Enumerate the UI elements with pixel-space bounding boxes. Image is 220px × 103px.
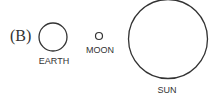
- earth-circle: [39, 23, 67, 51]
- sun-circle: [129, 0, 208, 79]
- moon-label: MOON: [86, 45, 114, 55]
- sun-label: SUN: [157, 85, 176, 95]
- earth-label: EARTH: [39, 56, 69, 66]
- moon-circle: [96, 33, 103, 40]
